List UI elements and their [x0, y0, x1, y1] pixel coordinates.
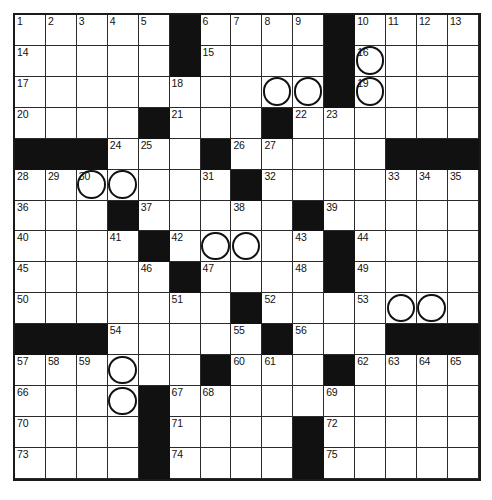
grid-cell[interactable]: 35: [448, 170, 479, 201]
grid-cell[interactable]: [386, 77, 417, 108]
grid-cell[interactable]: [355, 108, 386, 139]
grid-cell[interactable]: [417, 386, 448, 417]
grid-cell[interactable]: [46, 108, 77, 139]
grid-cell[interactable]: 54: [108, 324, 139, 355]
grid-cell[interactable]: [77, 77, 108, 108]
grid-cell[interactable]: [324, 324, 355, 355]
grid-cell[interactable]: 44: [355, 231, 386, 262]
grid-cell[interactable]: 57: [15, 355, 46, 386]
grid-cell[interactable]: 36: [15, 201, 46, 232]
grid-cell[interactable]: [355, 170, 386, 201]
grid-cell[interactable]: [108, 108, 139, 139]
grid-cell[interactable]: [417, 293, 448, 324]
grid-cell[interactable]: [355, 201, 386, 232]
grid-cell[interactable]: [386, 108, 417, 139]
grid-cell[interactable]: [201, 324, 232, 355]
grid-cell[interactable]: 30: [77, 170, 108, 201]
grid-cell[interactable]: [417, 417, 448, 448]
grid-cell[interactable]: 8: [262, 15, 293, 46]
grid-cell[interactable]: 16: [355, 46, 386, 77]
grid-cell[interactable]: 24: [108, 139, 139, 170]
grid-cell[interactable]: [108, 170, 139, 201]
grid-cell[interactable]: 62: [355, 355, 386, 386]
grid-cell[interactable]: [262, 262, 293, 293]
grid-cell[interactable]: [417, 46, 448, 77]
grid-cell[interactable]: [448, 77, 479, 108]
grid-cell[interactable]: 1: [15, 15, 46, 46]
grid-cell[interactable]: 11: [386, 15, 417, 46]
grid-cell[interactable]: [386, 231, 417, 262]
grid-cell[interactable]: [262, 201, 293, 232]
grid-cell[interactable]: 5: [139, 15, 170, 46]
grid-cell[interactable]: 73: [15, 448, 46, 479]
grid-cell[interactable]: 37: [139, 201, 170, 232]
grid-cell[interactable]: [386, 448, 417, 479]
grid-cell[interactable]: [139, 293, 170, 324]
grid-cell[interactable]: 66: [15, 386, 46, 417]
grid-cell[interactable]: [293, 293, 324, 324]
grid-cell[interactable]: 27: [262, 139, 293, 170]
grid-cell[interactable]: [108, 262, 139, 293]
grid-cell[interactable]: [170, 355, 201, 386]
grid-cell[interactable]: 38: [231, 201, 262, 232]
grid-cell[interactable]: 67: [170, 386, 201, 417]
grid-cell[interactable]: 61: [262, 355, 293, 386]
grid-cell[interactable]: [139, 170, 170, 201]
grid-cell[interactable]: 14: [15, 46, 46, 77]
grid-cell[interactable]: [46, 293, 77, 324]
grid-cell[interactable]: [386, 262, 417, 293]
grid-cell[interactable]: [77, 293, 108, 324]
grid-cell[interactable]: [77, 417, 108, 448]
grid-cell[interactable]: 28: [15, 170, 46, 201]
grid-cell[interactable]: [231, 262, 262, 293]
grid-cell[interactable]: 69: [324, 386, 355, 417]
grid-cell[interactable]: 59: [77, 355, 108, 386]
grid-cell[interactable]: 3: [77, 15, 108, 46]
grid-cell[interactable]: [201, 108, 232, 139]
grid-cell[interactable]: [293, 77, 324, 108]
grid-cell[interactable]: [293, 386, 324, 417]
grid-cell[interactable]: 49: [355, 262, 386, 293]
grid-cell[interactable]: [201, 293, 232, 324]
grid-cell[interactable]: [448, 417, 479, 448]
grid-cell[interactable]: [77, 201, 108, 232]
grid-cell[interactable]: 63: [386, 355, 417, 386]
grid-cell[interactable]: 7: [231, 15, 262, 46]
grid-cell[interactable]: [139, 324, 170, 355]
grid-cell[interactable]: [417, 108, 448, 139]
grid-cell[interactable]: 2: [46, 15, 77, 46]
grid-cell[interactable]: [46, 448, 77, 479]
grid-cell[interactable]: 22: [293, 108, 324, 139]
grid-cell[interactable]: 51: [170, 293, 201, 324]
grid-cell[interactable]: [355, 139, 386, 170]
grid-cell[interactable]: [293, 355, 324, 386]
grid-cell[interactable]: [355, 417, 386, 448]
grid-cell[interactable]: [448, 46, 479, 77]
grid-cell[interactable]: [77, 262, 108, 293]
grid-cell[interactable]: 71: [170, 417, 201, 448]
grid-cell[interactable]: 19: [355, 77, 386, 108]
grid-cell[interactable]: [77, 386, 108, 417]
grid-cell[interactable]: [231, 386, 262, 417]
grid-cell[interactable]: 6: [201, 15, 232, 46]
grid-cell[interactable]: [170, 139, 201, 170]
grid-cell[interactable]: [231, 448, 262, 479]
grid-cell[interactable]: [448, 201, 479, 232]
grid-cell[interactable]: 75: [324, 448, 355, 479]
grid-cell[interactable]: [170, 201, 201, 232]
grid-cell[interactable]: [46, 262, 77, 293]
grid-cell[interactable]: [77, 231, 108, 262]
grid-cell[interactable]: [324, 139, 355, 170]
grid-cell[interactable]: [108, 417, 139, 448]
grid-cell[interactable]: 53: [355, 293, 386, 324]
grid-cell[interactable]: [201, 448, 232, 479]
grid-cell[interactable]: 58: [46, 355, 77, 386]
grid-cell[interactable]: [46, 201, 77, 232]
grid-cell[interactable]: 55: [231, 324, 262, 355]
grid-cell[interactable]: [386, 201, 417, 232]
grid-cell[interactable]: 39: [324, 201, 355, 232]
grid-cell[interactable]: 26: [231, 139, 262, 170]
grid-cell[interactable]: 33: [386, 170, 417, 201]
grid-cell[interactable]: [231, 77, 262, 108]
grid-cell[interactable]: [108, 448, 139, 479]
